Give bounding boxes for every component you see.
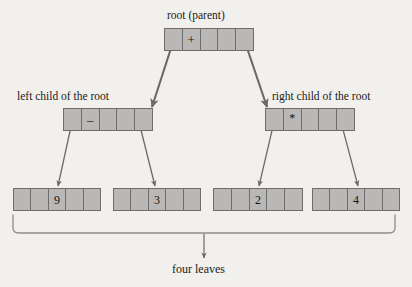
node-leaf-4-cell-3: [365, 189, 382, 210]
node-leaf-3-cell-1: [232, 189, 250, 210]
node-left-child-cell-2: [100, 109, 118, 130]
node-left-child[interactable]: –: [63, 108, 153, 131]
node-root-cell-2: [201, 29, 219, 50]
edge-right-child-to-leaf-3: [259, 122, 274, 186]
node-leaf-3-cell-0: [214, 189, 232, 210]
node-right-child-cell-4: [337, 109, 354, 130]
node-leaf-1-cell-4: [84, 189, 100, 210]
node-leaf-1-cell-0: [14, 189, 31, 210]
node-root[interactable]: +: [164, 28, 254, 51]
node-leaf-2-cell-3: [166, 189, 183, 210]
node-leaf-2-cell-2: 3: [149, 189, 166, 210]
edge-left-child-to-leaf-1: [58, 122, 72, 186]
edge-root-to-left-child: [152, 42, 173, 107]
node-right-child-cell-2: [302, 109, 320, 130]
expression-tree-diagram: root (parent) left child of the root rig…: [0, 0, 412, 287]
node-root-cell-0: [165, 29, 183, 50]
node-leaf-4-cell-0: [313, 189, 330, 210]
four-leaves-label: four leaves: [172, 263, 225, 276]
node-left-child-cell-3: [117, 109, 135, 130]
node-leaf-1-cell-3: [66, 189, 83, 210]
node-right-child-cell-3: [319, 109, 337, 130]
node-leaf-2-cell-0: [114, 189, 131, 210]
node-left-child-cell-1: –: [82, 109, 100, 130]
node-leaf-2-cell-1: [131, 189, 148, 210]
node-leaf-2-cell-4: [184, 189, 200, 210]
node-leaf-1[interactable]: 9: [13, 188, 101, 211]
node-leaf-4-cell-1: [330, 189, 347, 210]
node-left-child-cell-0: [64, 109, 82, 130]
node-leaf-2[interactable]: 3: [113, 188, 201, 211]
node-right-child-cell-1: *: [284, 109, 302, 130]
node-leaf-1-cell-1: [31, 189, 48, 210]
node-leaf-3-cell-2: 2: [250, 189, 268, 210]
node-root-cell-3: [218, 29, 236, 50]
leaves-brace: [13, 215, 395, 233]
node-right-child-cell-0: [266, 109, 284, 130]
node-leaf-4-cell-4: [383, 189, 399, 210]
node-root-cell-4: [236, 29, 253, 50]
node-root-cell-1: +: [183, 29, 201, 50]
node-leaf-4[interactable]: 4: [312, 188, 400, 211]
node-leaf-3-cell-3: [267, 189, 285, 210]
node-leaf-3[interactable]: 2: [213, 188, 303, 211]
edge-right-child-to-leaf-4: [341, 122, 358, 186]
edge-root-to-right-child: [245, 42, 267, 107]
node-right-child[interactable]: *: [265, 108, 355, 131]
node-left-child-cell-4: [135, 109, 152, 130]
right-child-label: right child of the root: [272, 90, 370, 103]
edge-left-child-to-leaf-2: [139, 122, 155, 186]
node-leaf-1-cell-2: 9: [49, 189, 66, 210]
node-leaf-3-cell-4: [285, 189, 302, 210]
root-label: root (parent): [167, 9, 225, 22]
left-child-label: left child of the root: [17, 90, 109, 103]
node-leaf-4-cell-2: 4: [348, 189, 365, 210]
